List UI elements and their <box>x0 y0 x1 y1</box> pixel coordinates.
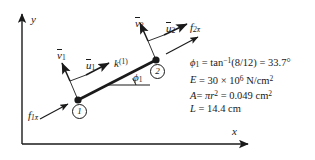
u2-bar-sub: 2 <box>172 26 176 35</box>
f1-xbar-label: f1x̄ <box>28 110 38 122</box>
spec-phi-eq: = tan <box>202 57 223 68</box>
u1-bar-label: u1 <box>86 60 95 72</box>
figure-canvas: y x 1 2 v1 u1 v2 u2 f1x̄ f2x̄ k(1) ϕ1 ϕ1… <box>0 0 315 160</box>
f1-xbar-arrow <box>40 104 68 119</box>
u2-bar-label: u2 <box>166 23 175 35</box>
spec-line-phi: ϕ1 = tan−1(8/12) = 33.7° <box>190 54 291 71</box>
stiffness-label: k(1) <box>114 58 128 69</box>
x-axis-label: x <box>232 126 237 137</box>
spec-line-L: L = 14.4 cm <box>190 102 291 115</box>
spec-block: ϕ1 = tan−1(8/12) = 33.7° E = 30 × 106 N/… <box>190 54 291 115</box>
v2-bar-base: v <box>135 18 140 29</box>
v1-bar-base: v <box>57 50 62 61</box>
stiffness-superscript: (1) <box>119 57 128 66</box>
y-axis-label: y <box>31 14 36 25</box>
spec-L-symbol: L <box>190 103 196 114</box>
v2-bar-sub: 2 <box>140 21 144 30</box>
spec-phi-sub: 1 <box>195 60 199 69</box>
v1-bar-label: v1 <box>57 50 66 62</box>
f1-xbar-sub: 1x̄ <box>31 113 38 122</box>
node-1-label: 1 <box>72 104 87 119</box>
spec-line-E: E = 30 × 106 N/cm2 <box>190 71 291 86</box>
v1-bar-sub: 1 <box>62 53 66 62</box>
v2-bar-label: v2 <box>135 18 144 30</box>
u2-bar-base: u <box>166 23 172 34</box>
u1-bar-base: u <box>86 60 92 71</box>
spec-A-value: = πr2 = 0.049 cm2 <box>196 90 272 101</box>
spec-phi-exponent: −1 <box>223 56 231 65</box>
f2-xbar-label: f2x̄ <box>190 22 200 34</box>
f2-xbar-arrow <box>166 37 198 54</box>
f2-xbar-sub: 2x̄ <box>193 25 200 34</box>
angle-label: ϕ1 <box>133 72 142 84</box>
spec-E-symbol: E <box>190 75 196 86</box>
spec-E-value: = 30 × 106 N/cm2 <box>199 75 273 86</box>
spec-phi-value: (8/12) = 33.7° <box>231 57 290 68</box>
v1-bar-arrow <box>62 63 70 81</box>
angle-sub: 1 <box>139 75 143 84</box>
spec-line-A: A= πr2 = 0.049 cm2 <box>190 87 291 102</box>
node-2-label: 2 <box>150 64 165 79</box>
spec-L-value: = 14.4 cm <box>198 103 240 114</box>
u1-bar-sub: 1 <box>92 63 96 72</box>
v2-connector <box>148 35 164 60</box>
